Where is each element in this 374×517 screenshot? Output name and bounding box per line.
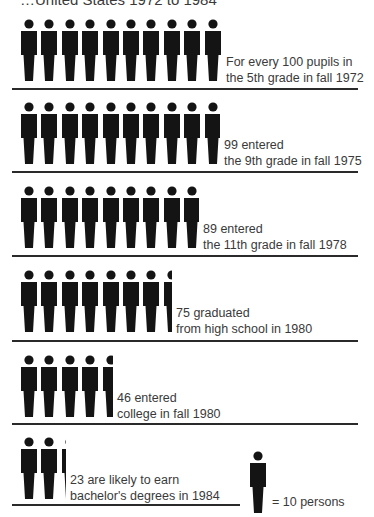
caption-line-1: 89 entered <box>203 221 347 237</box>
caption-line-2: bachelor's degrees in 1984 <box>70 488 220 504</box>
caption-line-2: college in fall 1980 <box>117 406 221 422</box>
row-caption: 23 are likely to earnbachelor's degrees … <box>70 472 220 504</box>
row-caption: For every 100 pupils inthe 5th grade in … <box>226 54 364 86</box>
caption-line-2: the 9th grade in fall 1975 <box>224 153 362 169</box>
row-divider <box>12 504 240 506</box>
caption-line-1: 99 entered <box>224 137 362 153</box>
person-icon <box>81 102 99 166</box>
row-divider <box>12 171 358 173</box>
person-icon <box>20 19 38 83</box>
person-icon <box>102 186 120 250</box>
partial-person-icon <box>183 186 199 250</box>
pictograph-row: 89 enteredthe 11th grade in fall 1978 <box>0 186 374 266</box>
person-icon <box>122 186 140 250</box>
row-divider <box>12 255 358 257</box>
caption-line-2: from high school in 1980 <box>176 321 312 337</box>
person-icon <box>163 102 181 166</box>
person-icon <box>81 270 99 334</box>
caption-line-1: 75 graduated <box>176 305 312 321</box>
person-icon <box>40 437 58 501</box>
pictograph-row: 75 graduatedfrom high school in 1980 <box>0 270 374 350</box>
person-icon <box>81 355 99 419</box>
caption-line-1: 23 are likely to earn <box>70 472 220 488</box>
person-icon <box>142 270 160 334</box>
person-icon <box>183 102 201 166</box>
person-icon <box>142 102 160 166</box>
pictograph-row: For every 100 pupils inthe 5th grade in … <box>0 19 374 99</box>
person-icon <box>81 186 99 250</box>
person-icon <box>40 102 58 166</box>
partial-person-icon <box>102 355 113 419</box>
pictograph-row: 99 enteredthe 9th grade in fall 1975 <box>0 102 374 182</box>
person-icon <box>122 270 140 334</box>
person-icon <box>20 355 38 419</box>
person-icon <box>102 270 120 334</box>
person-icon <box>40 270 58 334</box>
partial-person-icon <box>61 437 66 501</box>
person-icon <box>183 19 201 83</box>
person-icon <box>142 186 160 250</box>
row-caption: 46 enteredcollege in fall 1980 <box>117 390 221 422</box>
person-icon <box>102 102 120 166</box>
person-icon <box>102 19 120 83</box>
row-divider <box>12 423 358 425</box>
partial-person-icon <box>163 270 172 334</box>
caption-line-2: the 5th grade in fall 1972 <box>226 70 364 86</box>
row-caption: 89 enteredthe 11th grade in fall 1978 <box>203 221 347 253</box>
person-icon <box>142 19 160 83</box>
legend-label: = 10 persons <box>272 494 345 510</box>
person-icon <box>20 186 38 250</box>
person-icon <box>122 102 140 166</box>
person-icon <box>40 355 58 419</box>
person-icon <box>20 102 38 166</box>
person-icon <box>61 19 79 83</box>
person-icon <box>61 270 79 334</box>
row-caption: 99 enteredthe 9th grade in fall 1975 <box>224 137 362 169</box>
person-icon <box>163 19 181 83</box>
person-icon <box>81 19 99 83</box>
partial-person-icon <box>204 102 220 166</box>
person-icon <box>40 186 58 250</box>
person-icon <box>122 19 140 83</box>
caption-line-1: For every 100 pupils in <box>226 54 364 70</box>
row-divider <box>12 88 358 90</box>
person-icon <box>40 19 58 83</box>
person-icon <box>163 186 181 250</box>
person-icon <box>61 355 79 419</box>
row-caption: 75 graduatedfrom high school in 1980 <box>176 305 312 337</box>
row-divider <box>12 340 358 342</box>
person-icon <box>61 186 79 250</box>
legend-person-icon <box>249 451 267 515</box>
caption-line-2: the 11th grade in fall 1978 <box>203 237 347 253</box>
person-icon <box>20 270 38 334</box>
person-icon <box>61 102 79 166</box>
person-icon <box>204 19 222 83</box>
chart-title: …United States 1972 to 1984 <box>20 0 360 8</box>
caption-line-1: 46 entered <box>117 390 221 406</box>
person-icon <box>20 437 38 501</box>
